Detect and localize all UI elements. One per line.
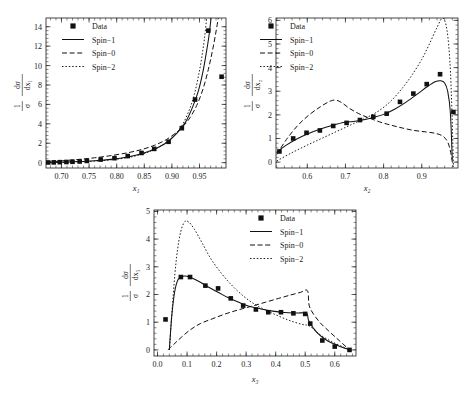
y-tick-label: 10 [34,62,42,71]
y-tick-label: 1 [146,318,150,327]
y-tick-label: 12 [34,42,42,51]
x-axis-title: x₁ [132,183,140,193]
y-axis-title: 1σdσdx₃ [121,264,140,301]
legend-label-spin2: Spin−2 [92,63,115,72]
legend-label-data: Data [92,22,108,31]
x-tick-label: 0.1 [182,360,192,369]
x-tick-label: 0.75 [82,172,96,181]
x-tick-label: 0.0 [153,360,163,369]
svg-text:dx₁: dx₁ [23,80,32,91]
y-tick-label: 2 [38,139,42,148]
legend-marker-data [268,23,273,28]
x-tick-label: 0.3 [241,360,251,369]
x-tick-label: 0.8 [379,172,389,181]
panel-x1-svg: 0.700.750.800.850.900.9502468101214x₁1σd… [0,0,234,200]
x-tick-label: 0.6 [302,172,312,181]
legend-marker-data [70,23,75,28]
panel-x2-svg: 0.60.70.80.90123456x₂1σdσdx₂DataSpin−1Sp… [234,0,468,200]
y-tick-label: 3 [146,263,150,272]
data-points [277,72,456,154]
x-tick-label: 0.95 [192,172,206,181]
curve-dotted [169,221,351,350]
y-tick-label: 2 [268,111,272,120]
svg-text:σ: σ [253,104,262,108]
y-tick-label: 3 [268,87,272,96]
y-tick-label: 6 [38,100,42,109]
x-tick-label: 0.5 [300,360,310,369]
svg-text:dx₃: dx₃ [131,270,140,281]
x-tick-label: 0.85 [137,172,151,181]
svg-text:1: 1 [13,104,22,108]
x-tick-label: 0.80 [110,172,124,181]
legend-label-spin0: Spin−0 [280,241,303,250]
curve-dashed [277,100,453,167]
y-tick-label: 8 [38,81,42,90]
svg-text:dσ: dσ [121,271,130,279]
y-tick-label: 0 [146,346,150,355]
y-tick-label: 0 [38,159,42,168]
svg-text:dσ: dσ [243,81,252,89]
x-tick-label: 0.70 [54,172,68,181]
y-tick-label: 4 [38,120,42,129]
x-tick-label: 0.7 [340,172,350,181]
x-tick-label: 0.4 [271,360,281,369]
legend-label-spin1: Spin−1 [280,228,303,237]
x-tick-label: 0.2 [212,360,222,369]
legend-label-spin0: Spin−0 [290,49,313,58]
data-points [46,28,224,164]
y-tick-label: 0 [268,158,272,167]
svg-text:1: 1 [121,294,130,298]
y-tick-label: 5 [268,40,272,49]
svg-text:dσ: dσ [13,81,22,89]
svg-text:dx₂: dx₂ [253,80,262,91]
legend-label-spin1: Spin−1 [290,36,313,45]
legend-label-data: Data [290,22,306,31]
x-axis-title: x₂ [363,183,371,193]
y-tick-label: 4 [268,64,272,73]
svg-text:σ: σ [23,104,32,108]
panel-x3-svg: 0.00.10.20.30.40.50.6012345x₃1σdσdx₃Data… [110,196,372,401]
y-tick-label: 2 [146,290,150,299]
curve-solid [277,81,453,160]
panel-x2: 0.60.70.80.90123456x₂1σdσdx₂DataSpin−1Sp… [234,0,468,200]
panel-x3: 0.00.10.20.30.40.50.6012345x₃1σdσdx₃Data… [110,196,372,401]
x-tick-label: 0.6 [330,360,340,369]
legend-label-spin2: Spin−2 [290,63,313,72]
legend: DataSpin−1Spin−0Spin−2 [62,22,115,72]
svg-text:σ: σ [131,294,140,298]
legend-label-spin2: Spin−2 [280,255,303,264]
panel-x1: 0.700.750.800.850.900.9502468101214x₁1σd… [0,0,234,200]
y-tick-label: 5 [146,207,150,216]
y-tick-label: 14 [34,23,42,32]
legend-label-data: Data [280,214,296,223]
svg-text:1: 1 [243,104,252,108]
legend-label-spin0: Spin−0 [92,49,115,58]
plot-frame [46,18,226,168]
data-points [163,275,352,352]
y-tick-label: 4 [146,235,150,244]
legend-label-spin1: Spin−1 [92,36,115,45]
y-axis-title: 1σdσdx₁ [13,74,32,111]
x-tick-label: 0.9 [417,172,427,181]
x-axis-title: x₃ [251,374,259,384]
legend-marker-data [258,215,263,220]
legend: DataSpin−1Spin−0Spin−2 [250,214,303,264]
y-axis-title: 1σdσdx₂ [243,74,262,111]
x-tick-label: 0.90 [165,172,179,181]
y-tick-label: 1 [268,134,272,143]
